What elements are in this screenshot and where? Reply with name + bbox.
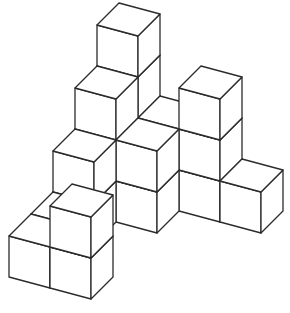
cube-stack-figure: Isometric stack of unit cubes <box>0 0 290 313</box>
isometric-cube-drawing <box>0 0 290 313</box>
